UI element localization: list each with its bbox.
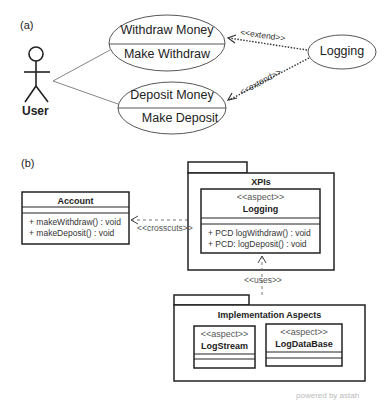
account-operation: + makeWithdraw() : void — [29, 217, 121, 227]
use-case-deposit-top: Deposit Money — [118, 88, 226, 102]
logstream-stereotype: <<aspect>> — [194, 329, 255, 339]
use-case-withdraw-top: Withdraw Money — [109, 23, 225, 37]
logging-aspect-operation: + PCD logWithdraw() : void — [208, 228, 311, 238]
crosscuts-label: <<crosscuts>> — [137, 223, 193, 233]
xpis-package-name: XPIs — [188, 177, 334, 187]
logdatabase-stereotype: <<aspect>> — [266, 327, 342, 337]
panel-b-label: (b) — [21, 157, 34, 169]
account-class-name: Account — [22, 196, 129, 206]
use-case-deposit-bottom: Make Deposit — [128, 111, 232, 125]
use-case-withdraw-bottom: Make Withdraw — [109, 47, 225, 61]
logdatabase-name: LogDataBase — [266, 339, 342, 349]
footer-watermark: powered by astah — [296, 391, 359, 400]
arrowhead-icon — [228, 35, 237, 100]
account-operation: + makeDeposit() : void — [29, 228, 114, 238]
impl-package-name: Implementation Aspects — [174, 310, 365, 320]
actor-label: User — [22, 104, 49, 118]
logstream-name: LogStream — [194, 341, 255, 351]
use-case-logging-label: Logging — [308, 44, 376, 58]
logging-aspect-operation: + PCD: logDeposit() : void — [208, 239, 307, 249]
association-line — [53, 50, 110, 81]
association-line — [53, 81, 118, 104]
actor-user-icon — [24, 47, 50, 102]
panel-a-label: (a) — [20, 19, 33, 31]
uses-label: <<uses>> — [244, 275, 282, 285]
logging-aspect-stereotype: <<aspect>> — [201, 192, 320, 202]
logging-aspect-name: Logging — [201, 204, 320, 214]
